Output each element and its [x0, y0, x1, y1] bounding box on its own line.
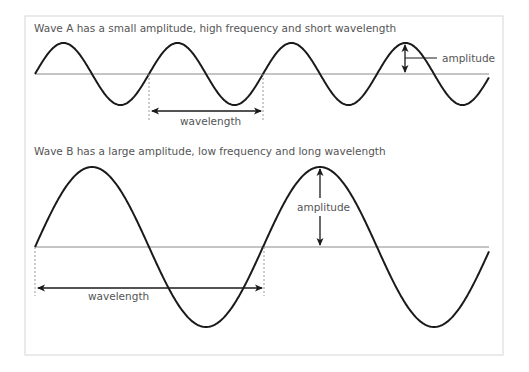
wave-b-amplitude-label: amplitude: [297, 201, 350, 213]
wave-diagram: Wave A has a small amplitude, high frequ…: [0, 0, 529, 372]
wave-a-caption: Wave A has a small amplitude, high frequ…: [34, 22, 396, 34]
wave-a-wavelength-label: wavelength: [180, 115, 241, 127]
diagram-frame: [25, 16, 503, 355]
wave-b-caption: Wave B has a large amplitude, low freque…: [34, 145, 386, 157]
wave-b-wavelength-label: wavelength: [88, 290, 149, 302]
wave-a-amplitude-label: amplitude: [442, 52, 495, 64]
